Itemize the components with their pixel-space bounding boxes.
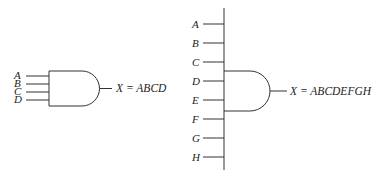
input-label-h: H [191,151,201,163]
and-gate-diagram: A B C D X = ABCD A B C D E F G H X = ABC… [0,0,378,182]
input-label-d: D [191,75,200,87]
output-expression: X = ABCD [115,82,167,94]
input-label-a: A [191,18,199,30]
and-gate-8-input: A B C D E F G H X = ABCDEFGH [191,8,372,170]
input-label-b: B [192,37,199,49]
and-gate-4-input: A B C D X = ABCD [13,69,167,106]
and-gate-body-icon [49,71,100,106]
output-expression: X = ABCDEFGH [289,85,372,97]
input-label-d: D [13,93,22,105]
input-label-c: C [192,56,200,68]
input-label-f: F [191,113,199,125]
input-label-g: G [192,132,200,144]
input-label-e: E [191,94,199,106]
and-gate-body-icon [224,71,270,111]
